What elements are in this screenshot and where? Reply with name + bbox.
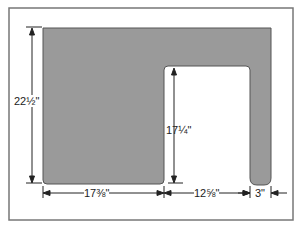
notch-width-label: 12⅝" — [194, 187, 219, 199]
notch-height-label: 17¼" — [166, 124, 191, 136]
overall-height-label: 22½" — [14, 95, 39, 107]
panel-shape — [43, 28, 271, 185]
width-dimensions — [43, 186, 287, 198]
right-leg-width-label: 3" — [255, 187, 265, 199]
left-width-label: 17⅜" — [84, 187, 109, 199]
